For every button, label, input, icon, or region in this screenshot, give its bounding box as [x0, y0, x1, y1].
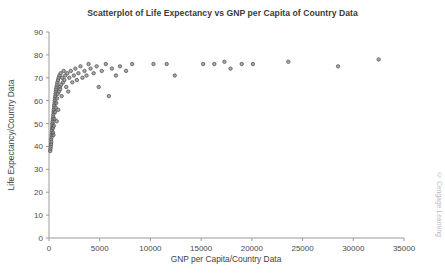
data-point [165, 62, 168, 65]
y-axis-title: Life Expectancy/Country Data [6, 79, 16, 190]
data-point [67, 90, 70, 93]
x-axis-tick-label: 5000 [91, 244, 109, 253]
data-point [57, 108, 60, 111]
y-axis-tick-label: 30 [34, 165, 43, 174]
data-point [55, 120, 58, 123]
data-point [95, 65, 98, 68]
data-point-group [49, 58, 381, 153]
data-point [81, 76, 84, 79]
scatterplot-figure: Scatterplot of Life Expectancy vs GNP pe… [0, 0, 445, 275]
data-point [92, 72, 95, 75]
data-point [114, 74, 117, 77]
data-point [75, 78, 78, 81]
data-point [85, 74, 88, 77]
plot-canvas: 0102030405060708090 05000100001500020000… [0, 0, 445, 275]
data-point [118, 65, 121, 68]
x-axis-tick-label: 35000 [393, 244, 416, 253]
data-point [287, 60, 290, 63]
data-point [87, 62, 90, 65]
data-point [65, 85, 68, 88]
x-axis-tick-label: 15000 [190, 244, 213, 253]
data-point [213, 62, 216, 65]
data-point [50, 140, 53, 143]
data-point [152, 62, 155, 65]
copyright-watermark: © Cengage Learning [436, 172, 443, 237]
y-axis-tick-label: 70 [34, 74, 43, 83]
data-point [62, 69, 65, 72]
x-axis-tick-label: 0 [47, 244, 52, 253]
data-point [130, 62, 133, 65]
data-point [53, 110, 56, 113]
data-point [74, 67, 77, 70]
x-axis-ticks: 05000100001500020000250003000035000 [47, 238, 416, 253]
data-point [110, 67, 113, 70]
data-point [69, 69, 72, 72]
data-point [59, 72, 62, 75]
y-axis-tick-label: 40 [34, 142, 43, 151]
data-point [55, 101, 58, 104]
x-axis-tick-label: 10000 [139, 244, 162, 253]
data-point [223, 60, 226, 63]
data-point [104, 62, 107, 65]
y-axis-tick-label: 10 [34, 211, 43, 220]
y-axis-tick-label: 90 [34, 28, 43, 37]
y-axis-tick-label: 0 [39, 234, 44, 243]
data-point [60, 94, 63, 97]
y-axis-ticks: 0102030405060708090 [34, 28, 49, 243]
data-point [55, 97, 58, 100]
data-point [68, 76, 71, 79]
data-point [52, 133, 55, 136]
axes-group [49, 32, 404, 238]
x-axis-title: GNP per Capita/Country Data [171, 254, 282, 264]
data-point [100, 69, 103, 72]
data-point [63, 78, 66, 81]
data-point [89, 67, 92, 70]
data-point [97, 85, 100, 88]
data-point [336, 65, 339, 68]
data-point [229, 67, 232, 70]
x-axis-tick-label: 25000 [291, 244, 314, 253]
data-point [201, 62, 204, 65]
x-axis-tick-label: 20000 [241, 244, 264, 253]
data-point [71, 81, 74, 84]
x-axis-tick-label: 30000 [342, 244, 365, 253]
data-point [240, 62, 243, 65]
y-axis-tick-label: 60 [34, 97, 43, 106]
data-point [79, 65, 82, 68]
data-point [251, 62, 254, 65]
y-axis-tick-label: 50 [34, 120, 43, 129]
data-point [377, 58, 380, 61]
data-point [66, 72, 69, 75]
y-axis-tick-label: 80 [34, 51, 43, 60]
data-point [52, 124, 55, 127]
y-axis-tick-label: 20 [34, 188, 43, 197]
data-point [72, 74, 75, 77]
data-point [58, 88, 61, 91]
data-point [124, 69, 127, 72]
data-point [83, 69, 86, 72]
data-point [77, 72, 80, 75]
data-point [107, 94, 110, 97]
data-point [173, 74, 176, 77]
